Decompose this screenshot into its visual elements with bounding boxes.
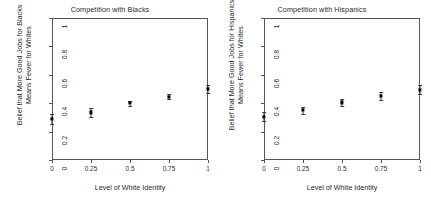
data-point bbox=[340, 101, 343, 104]
y-axis-label-line2: Means Fewer for Whites bbox=[236, 0, 245, 145]
x-axis-tick bbox=[342, 160, 343, 163]
y-axis-tick-label: 0.4 bbox=[273, 103, 280, 121]
error-bar-cap bbox=[340, 99, 344, 100]
error-bar-cap bbox=[128, 106, 132, 107]
y-axis-tick-label: 0.2 bbox=[61, 131, 68, 149]
y-axis-tick bbox=[49, 75, 52, 76]
x-axis-tick-label: 0.25 bbox=[79, 165, 103, 172]
panel-competition-with-hispanics: Competition with Hispanics Belief that M… bbox=[216, 0, 431, 200]
figure-two-panel-plot: Competition with Blacks Belief that More… bbox=[0, 0, 431, 200]
y-axis-tick-label: 1 bbox=[273, 18, 280, 36]
x-axis-tick-label: 0 bbox=[40, 165, 64, 172]
x-axis-label: Level of White Identity bbox=[257, 183, 427, 192]
x-axis-tick-label: 0.75 bbox=[369, 165, 393, 172]
y-axis-label: Belief that More Good Jobs for Hispanics… bbox=[227, 0, 245, 145]
error-bar-cap bbox=[89, 117, 93, 118]
panel-title: Competition with Hispanics bbox=[224, 5, 420, 14]
error-bar-cap bbox=[379, 92, 383, 93]
x-axis-tick-label: 0.5 bbox=[330, 165, 354, 172]
y-axis-tick-label: 0.4 bbox=[61, 103, 68, 121]
data-point bbox=[89, 111, 92, 114]
error-bar-cap bbox=[262, 121, 266, 122]
data-point bbox=[50, 117, 53, 120]
y-axis-tick bbox=[261, 18, 264, 19]
error-bar-cap bbox=[262, 112, 266, 113]
y-axis-label-line1: Belief that More Good Jobs for Blacks bbox=[15, 0, 24, 145]
y-axis-tick bbox=[261, 75, 264, 76]
y-axis-tick bbox=[49, 103, 52, 104]
y-axis-tick-label: 0.6 bbox=[61, 74, 68, 92]
y-axis-tick bbox=[261, 132, 264, 133]
error-bar-cap bbox=[50, 124, 54, 125]
data-point bbox=[206, 87, 209, 90]
y-axis-tick-label: 0.8 bbox=[273, 46, 280, 64]
data-point bbox=[301, 109, 304, 112]
y-axis-tick bbox=[49, 46, 52, 47]
panel-competition-with-blacks: Competition with Blacks Belief that More… bbox=[0, 0, 215, 200]
error-bar-cap bbox=[379, 100, 383, 101]
error-bar-cap bbox=[89, 108, 93, 109]
error-bar-cap bbox=[206, 93, 210, 94]
x-axis-tick-label: 0.25 bbox=[291, 165, 315, 172]
y-axis-tick-label: 0.6 bbox=[273, 74, 280, 92]
x-axis-label: Level of White Identity bbox=[45, 183, 215, 192]
error-bar-cap bbox=[50, 114, 54, 115]
x-axis-tick-label: 0.75 bbox=[157, 165, 181, 172]
y-axis-tick bbox=[261, 46, 264, 47]
error-bar-cap bbox=[167, 99, 171, 100]
plot-frame bbox=[52, 18, 208, 160]
data-point bbox=[418, 88, 421, 91]
x-axis-tick bbox=[169, 160, 170, 163]
y-axis-tick bbox=[49, 18, 52, 19]
x-axis-tick bbox=[420, 160, 421, 163]
y-axis-tick-label: 0.8 bbox=[61, 46, 68, 64]
plot-frame bbox=[264, 18, 420, 160]
error-bar-cap bbox=[340, 106, 344, 107]
data-point bbox=[128, 102, 131, 105]
y-axis-tick-label: 1 bbox=[61, 18, 68, 36]
data-point bbox=[262, 115, 265, 118]
x-axis-tick-label: 1 bbox=[408, 165, 431, 172]
y-axis-tick bbox=[49, 132, 52, 133]
x-axis-tick-label: 0 bbox=[252, 165, 276, 172]
y-axis-label: Belief that More Good Jobs for Blacks Me… bbox=[15, 0, 33, 145]
error-bar-cap bbox=[301, 114, 305, 115]
x-axis-tick bbox=[264, 160, 265, 163]
data-point bbox=[167, 95, 170, 98]
x-axis-tick bbox=[381, 160, 382, 163]
panel-title: Competition with Blacks bbox=[12, 5, 208, 14]
x-axis-tick-label: 0.5 bbox=[118, 165, 142, 172]
error-bar-cap bbox=[418, 85, 422, 86]
y-axis-label-line2: Means Fewer for Whites bbox=[24, 0, 33, 145]
y-axis-tick bbox=[261, 103, 264, 104]
x-axis-tick bbox=[91, 160, 92, 163]
y-axis-label-line1: Belief that More Good Jobs for Hispanics bbox=[227, 0, 236, 145]
x-axis-tick bbox=[303, 160, 304, 163]
y-axis-tick-label: 0.2 bbox=[273, 131, 280, 149]
error-bar-cap bbox=[301, 107, 305, 108]
error-bar-cap bbox=[206, 85, 210, 86]
x-axis-tick bbox=[130, 160, 131, 163]
error-bar-cap bbox=[418, 94, 422, 95]
x-axis-tick bbox=[208, 160, 209, 163]
data-point bbox=[379, 95, 382, 98]
x-axis-tick bbox=[52, 160, 53, 163]
